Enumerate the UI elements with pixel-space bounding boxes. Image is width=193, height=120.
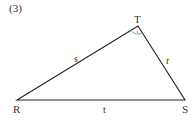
vertex-label-s: S — [182, 103, 188, 115]
side-label-r: r — [166, 55, 170, 66]
triangle-figure: (3) T R S s r t — [0, 0, 193, 120]
problem-number: (3) — [9, 2, 22, 15]
vertex-label-t: T — [134, 13, 141, 25]
side-label-t: t — [103, 104, 106, 115]
side-label-s: s — [74, 53, 78, 64]
triangle-diagram: (3) T R S s r t — [0, 0, 193, 120]
angle-dot-t — [137, 31, 139, 33]
vertex-label-r: R — [13, 103, 21, 115]
triangle-rst — [17, 26, 185, 100]
